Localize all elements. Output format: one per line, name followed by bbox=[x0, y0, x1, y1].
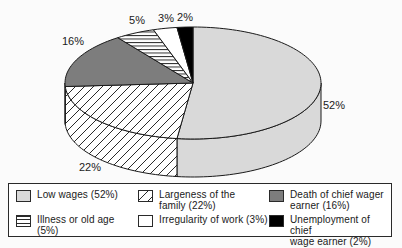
legend-label-line: wage earner (2%) bbox=[290, 236, 389, 247]
legend-swatch-solid-0 bbox=[16, 190, 31, 202]
legend-item-label: Illness or old age (5%) bbox=[37, 214, 138, 236]
legend-item-irregularity-of-work: Irregularity of work (3%) bbox=[138, 214, 269, 247]
pct-label-22: 22% bbox=[79, 161, 101, 173]
chart-legend: Low wages (52%)Largeness of thefamily (2… bbox=[8, 183, 392, 237]
legend-label-line: earner (16%) bbox=[290, 200, 384, 211]
pct-label-3: 3% bbox=[158, 12, 174, 24]
legend-label-line: Largeness of the bbox=[159, 189, 235, 200]
legend-label-line: Unemployment of chief bbox=[290, 214, 389, 236]
legend-label-line: Low wages (52%) bbox=[37, 189, 118, 200]
legend-swatch-solid-5 bbox=[269, 215, 284, 227]
legend-label-line: Death of chief wager bbox=[290, 189, 384, 200]
pct-label-52: 52% bbox=[323, 99, 345, 111]
pct-label-5: 5% bbox=[129, 14, 145, 26]
pie-chart-svg: 52%22%16%5%3%2% bbox=[0, 0, 402, 180]
legend-item-death-of-chief-wager-earner: Death of chief wagerearner (16%) bbox=[269, 189, 389, 211]
pie-chart-figure: 52%22%16%5%3%2% Low wages (52%)Largeness… bbox=[0, 0, 402, 248]
legend-item-unemployment-of-chief-wage-earner: Unemployment of chiefwage earner (2%) bbox=[269, 214, 389, 247]
legend-item-label: Unemployment of chiefwage earner (2%) bbox=[290, 214, 389, 247]
legend-item-largeness-of-the-family: Largeness of thefamily (22%) bbox=[138, 189, 269, 211]
legend-item-label: Largeness of thefamily (22%) bbox=[159, 189, 235, 211]
legend-swatch-solid-2 bbox=[269, 190, 284, 202]
legend-item-label: Death of chief wagerearner (16%) bbox=[290, 189, 384, 211]
legend-item-label: Irregularity of work (3%) bbox=[159, 214, 268, 225]
pct-label-2: 2% bbox=[177, 11, 193, 23]
legend-swatch-solid-4 bbox=[138, 215, 153, 227]
legend-item-label: Low wages (52%) bbox=[37, 189, 118, 200]
legend-item-low-wages: Low wages (52%) bbox=[16, 189, 138, 211]
legend-label-line: Irregularity of work (3%) bbox=[159, 214, 268, 225]
legend-label-line: family (22%) bbox=[159, 200, 235, 211]
pct-label-16: 16% bbox=[62, 35, 84, 47]
legend-swatch-horizontal-stripes-3 bbox=[16, 215, 31, 227]
legend-label-line: Illness or old age (5%) bbox=[37, 214, 138, 236]
legend-item-illness-or-old-age: Illness or old age (5%) bbox=[16, 214, 138, 247]
legend-swatch-diagonal-hatch-1 bbox=[138, 190, 153, 202]
